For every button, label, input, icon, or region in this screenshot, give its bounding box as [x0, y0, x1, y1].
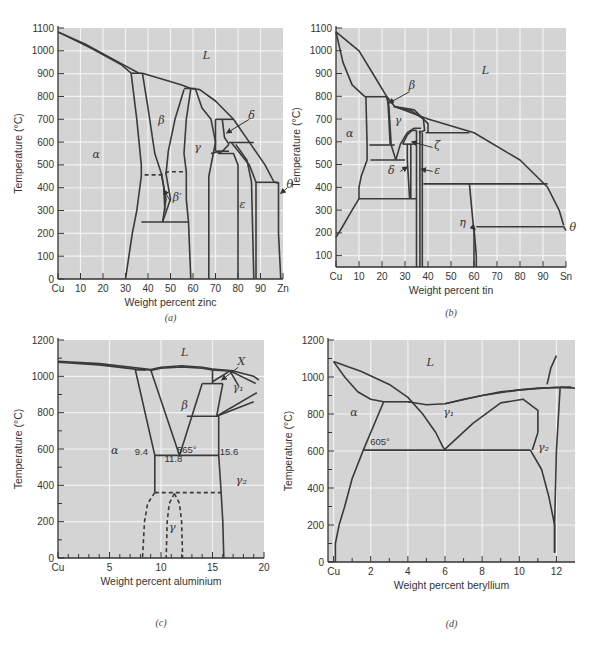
y-tick-label: 200 [37, 228, 54, 239]
y-tick-label: 200 [37, 516, 54, 527]
y-tick-label: 600 [37, 444, 54, 455]
x-tick-label: 10 [155, 562, 167, 573]
x-tick-label: Cu [52, 562, 65, 573]
y-tick-label: 600 [307, 446, 324, 457]
y-tick-label: 300 [37, 205, 54, 216]
y-axis-title: Temperature (°C) [12, 409, 24, 490]
x-tick-label: Sn [560, 271, 572, 282]
x-tick-label: Zn [277, 283, 289, 294]
y-tick-label: 100 [315, 250, 332, 261]
y-tick-label: 1200 [32, 335, 55, 346]
x-tick-label: 60 [187, 283, 199, 294]
x-tick-label: 20 [97, 283, 109, 294]
x-axis-title: Weight percent zinc [124, 296, 216, 308]
phase-label: ζ [434, 139, 441, 152]
x-tick-label: 2 [368, 566, 374, 577]
y-tick-label: 200 [307, 520, 324, 531]
y-tick-label: 400 [307, 483, 324, 494]
x-tick-label: 6 [442, 566, 448, 577]
y-tick-label: 100 [37, 251, 54, 262]
x-tick-label: 80 [514, 271, 526, 282]
y-tick-label: 700 [315, 114, 332, 125]
chart-panel-c: 020040060080010001200Cu5101520Weight per… [12, 335, 270, 630]
y-tick-label: 900 [37, 68, 54, 79]
panel-caption: (a) [165, 312, 177, 324]
x-tick-label: 4 [405, 566, 411, 577]
y-axis-title: Temperature (°C) [282, 411, 294, 492]
y-tick-label: 800 [315, 91, 332, 102]
phase-label: β [408, 79, 415, 92]
x-tick-label: 20 [258, 562, 270, 573]
y-tick-label: 500 [37, 159, 54, 170]
x-axis-title: Weight percent tin [409, 284, 494, 296]
x-tick-label: 10 [514, 566, 526, 577]
x-tick-label: 20 [376, 271, 388, 282]
panel-caption: (c) [155, 617, 167, 629]
x-tick-label: 50 [165, 283, 177, 294]
phase-label: α [111, 444, 119, 457]
y-axis-title: Temperature (°C) [290, 107, 302, 188]
x-tick-label: 15 [207, 562, 219, 573]
y-tick-label: 800 [37, 91, 54, 102]
y-tick-label: 800 [307, 409, 324, 420]
chart-panel-b: 10020030040050060070080090010001100Cu102… [290, 23, 577, 320]
x-tick-label: 80 [232, 283, 244, 294]
x-tick-label: Cu [327, 566, 340, 577]
y-axis-title: Temperature (°C) [12, 113, 24, 194]
phase-label: γ [395, 114, 402, 127]
y-tick-label: 300 [315, 205, 332, 216]
phase-label: γ₁ [443, 406, 454, 419]
y-tick-label: 1100 [310, 23, 332, 34]
x-tick-label: 50 [445, 271, 457, 282]
value-annotation: 9.4 [135, 446, 148, 457]
phase-label: β′ [172, 191, 182, 204]
x-tick-label: 8 [479, 566, 485, 577]
x-tick-label: Cu [330, 271, 343, 282]
value-annotation: 605° [370, 436, 390, 447]
y-tick-label: 900 [315, 68, 332, 79]
y-tick-label: 700 [37, 114, 54, 125]
phase-label: γ₂ [236, 474, 247, 487]
x-tick-label: 30 [399, 271, 411, 282]
x-tick-label: 60 [468, 271, 480, 282]
phase-label: γ [169, 521, 176, 534]
x-tick-label: 70 [210, 283, 222, 294]
phase-label: L [202, 49, 210, 62]
phase-label: α [346, 127, 354, 140]
phase-label: β [157, 114, 164, 127]
y-tick-label: 600 [315, 136, 332, 147]
panel-caption: (d) [446, 618, 458, 630]
phase-label: γ₂ [538, 441, 549, 454]
chart-panel-a: 010020030040050060070080090010001100Cu10… [12, 23, 293, 325]
value-annotation: 11.8 [164, 453, 182, 464]
y-tick-label: 0 [318, 557, 324, 568]
x-tick-label: 90 [255, 283, 267, 294]
phase-label: α [93, 148, 101, 161]
x-tick-label: 40 [142, 283, 154, 294]
phase-label: ε [434, 164, 440, 177]
x-tick-label: 12 [551, 566, 563, 577]
phase-label: L [425, 356, 433, 369]
y-tick-label: 1000 [32, 45, 55, 56]
y-tick-label: 500 [315, 159, 332, 170]
x-tick-label: 30 [120, 283, 132, 294]
phase-label: β [181, 399, 188, 412]
chart-panel-d: 020040060080010001200Cu24681012Weight pe… [282, 335, 575, 631]
y-tick-label: 1000 [302, 372, 325, 383]
y-tick-label: 600 [37, 137, 54, 148]
phase-label: γ₁ [233, 381, 244, 394]
x-tick-label: 10 [353, 271, 365, 282]
y-tick-label: 1100 [32, 23, 54, 34]
x-tick-label: 90 [537, 271, 549, 282]
x-tick-label: Cu [52, 283, 65, 294]
x-axis-title: Weight percent aluminium [100, 575, 221, 587]
y-tick-label: 400 [37, 480, 54, 491]
phase-label: ε [240, 198, 246, 211]
y-tick-label: 800 [37, 407, 54, 418]
y-tick-label: 1000 [32, 371, 55, 382]
phase-label: α [350, 406, 358, 419]
panel-caption: (b) [445, 307, 457, 319]
y-tick-label: 1000 [310, 45, 333, 56]
phase-label: L [180, 346, 188, 359]
phase-label: γ [194, 141, 201, 154]
